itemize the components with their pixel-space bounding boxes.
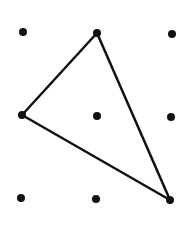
- grid-dot-r3c2: [92, 195, 100, 203]
- dot-grid-diagram: [0, 0, 187, 246]
- grid-dots: [17, 28, 176, 204]
- grid-dot-r1c1: [19, 28, 27, 36]
- grid-dot-r1c3: [168, 30, 176, 38]
- grid-dot-r3c1: [17, 194, 25, 202]
- grid-dot-r2c2: [93, 112, 101, 120]
- grid-dot-r2c3: [167, 113, 175, 121]
